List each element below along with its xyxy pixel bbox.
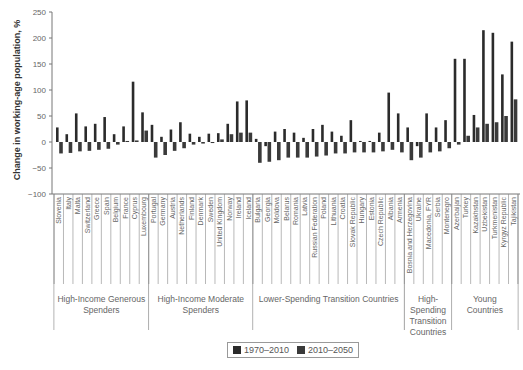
svg-text:Bulgaria: Bulgaria: [254, 197, 262, 223]
svg-text:Estonia: Estonia: [368, 197, 375, 220]
svg-text:100: 100: [33, 86, 47, 95]
svg-text:Denmark: Denmark: [197, 197, 204, 226]
svg-text:Latvia: Latvia: [301, 197, 308, 216]
svg-text:Iceland: Iceland: [245, 197, 252, 220]
group-label: High-Income Moderate Spenders: [151, 294, 251, 316]
svg-text:Malta: Malta: [74, 197, 81, 214]
legend-item-2010-2050: 2010–2050: [297, 345, 353, 355]
svg-text:Turkmenistan: Turkmenistan: [491, 197, 498, 239]
svg-text:Azerbaijan: Azerbaijan: [453, 197, 461, 230]
svg-text:250: 250: [33, 8, 47, 17]
svg-text:Norway: Norway: [226, 197, 234, 221]
svg-text:Serbia: Serbia: [434, 197, 441, 217]
svg-text:Uzbekistan: Uzbekistan: [481, 197, 488, 232]
svg-text:Italy: Italy: [65, 197, 73, 210]
legend-swatch: [233, 346, 241, 354]
svg-text:Germany: Germany: [159, 197, 167, 226]
legend-label: 2010–2050: [308, 345, 353, 355]
legend: 1970–2010 2010–2050: [227, 342, 359, 358]
svg-text:Armenia: Armenia: [396, 197, 403, 223]
group-label: Lower-Spending Transition Countries: [255, 294, 403, 305]
legend-label: 1970–2010: [244, 345, 289, 355]
svg-text:Slovenia: Slovenia: [55, 197, 62, 224]
group-label: High-Income Generous Spenders: [56, 294, 147, 316]
svg-text:Georgia: Georgia: [264, 197, 272, 222]
svg-text:200: 200: [33, 34, 47, 43]
svg-text:United Kingdom: United Kingdom: [216, 197, 224, 247]
svg-text:Cyprus: Cyprus: [131, 197, 139, 220]
svg-text:Czech Republic: Czech Republic: [377, 197, 385, 247]
svg-text:0: 0: [42, 138, 47, 147]
svg-text:Greece: Greece: [93, 197, 100, 220]
group-label: High-Spending Transition Countries: [406, 294, 449, 338]
svg-text:Sweden: Sweden: [207, 197, 214, 222]
svg-text:Belgium: Belgium: [112, 197, 120, 222]
svg-text:Netherlands: Netherlands: [178, 197, 185, 235]
svg-text:Ireland: Ireland: [235, 197, 242, 219]
svg-text:Ukraine: Ukraine: [415, 197, 422, 221]
svg-text:Kazakhstan: Kazakhstan: [472, 197, 479, 234]
svg-text:Albania: Albania: [387, 197, 394, 220]
legend-item-1970-2010: 1970–2010: [233, 345, 289, 355]
svg-text:Tajikistan: Tajikistan: [510, 197, 518, 226]
svg-text:Kyrgyz Republic: Kyrgyz Republic: [500, 197, 508, 248]
svg-text:150: 150: [33, 60, 47, 69]
svg-text:Poland: Poland: [320, 197, 327, 219]
svg-text:Romania: Romania: [292, 197, 299, 225]
svg-text:Croatia: Croatia: [339, 197, 346, 220]
svg-text:−50: −50: [32, 164, 46, 173]
svg-text:Montenegro: Montenegro: [443, 197, 451, 234]
y-axis-label: Change in working-age population, %: [12, 5, 22, 195]
svg-text:Belarus: Belarus: [283, 197, 290, 221]
svg-text:Hungary: Hungary: [358, 197, 366, 224]
svg-text:Portugal: Portugal: [150, 197, 158, 224]
svg-text:Luxembourg: Luxembourg: [140, 197, 148, 236]
svg-text:France: France: [122, 197, 129, 219]
svg-text:−100: −100: [28, 190, 47, 199]
svg-text:Bosnia and Herzegovina: Bosnia and Herzegovina: [406, 197, 414, 273]
bar-chart: 250200150100500−50−100SloveniaItalyMalta…: [0, 0, 523, 340]
svg-text:Lithuania: Lithuania: [330, 197, 337, 226]
legend-swatch: [297, 346, 305, 354]
svg-text:Turkey: Turkey: [462, 197, 470, 219]
svg-text:Austria: Austria: [169, 197, 176, 219]
svg-text:Switzerland: Switzerland: [84, 197, 91, 233]
group-label: Young Countries: [454, 294, 516, 316]
svg-text:50: 50: [37, 112, 46, 121]
svg-text:Russian Federation: Russian Federation: [311, 197, 318, 258]
svg-text:Macedonia, FYR: Macedonia, FYR: [425, 197, 432, 249]
svg-text:Moldova: Moldova: [273, 197, 280, 224]
svg-text:Finland: Finland: [188, 197, 195, 220]
svg-text:Slovak Republic: Slovak Republic: [349, 197, 357, 248]
svg-text:Spain: Spain: [103, 197, 111, 215]
